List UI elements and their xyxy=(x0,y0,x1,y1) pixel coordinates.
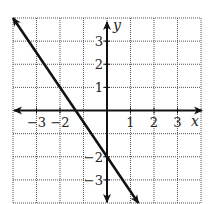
y-axis-label: y xyxy=(112,17,122,33)
x-tick-label: −3 xyxy=(27,115,46,130)
y-tick-label: 1 xyxy=(95,80,103,95)
y-tick-label: −2 xyxy=(84,150,103,165)
x-tick-label: 2 xyxy=(150,115,158,130)
series-line-upper xyxy=(13,18,76,111)
x-tick-label: 3 xyxy=(173,115,181,130)
x-tick-label: 1 xyxy=(126,115,134,130)
y-tick-label: −3 xyxy=(84,173,103,188)
y-tick-label: 2 xyxy=(95,57,103,72)
x-axis-label: x xyxy=(191,113,199,129)
coordinate-graph: −3−2123321−2−3 x y xyxy=(0,0,214,204)
x-tick-label: −2 xyxy=(50,115,69,130)
y-tick-label: 3 xyxy=(95,34,103,49)
axes xyxy=(14,22,202,202)
